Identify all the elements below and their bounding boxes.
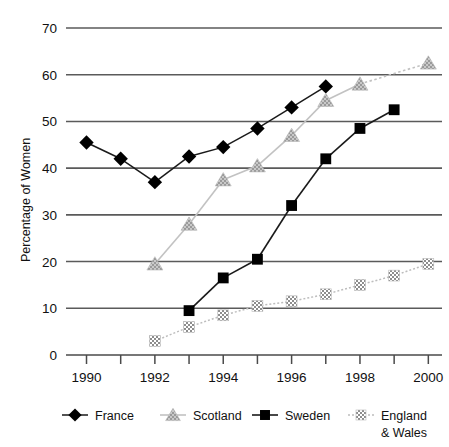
data-point-marker-checkered-square bbox=[356, 410, 366, 420]
data-point-marker-filled-triangle bbox=[147, 257, 163, 270]
data-point-marker-filled-square bbox=[260, 410, 270, 420]
data-point-marker-filled-square bbox=[218, 273, 229, 284]
data-point-marker-checkered-square bbox=[149, 336, 160, 347]
data-point-marker-filled-diamond bbox=[284, 100, 298, 114]
data-point-marker-checkered-square bbox=[252, 301, 263, 312]
y-tick-label: 10 bbox=[42, 301, 57, 316]
y-tick-label: 20 bbox=[42, 255, 57, 270]
data-point-marker-filled-triangle bbox=[352, 77, 368, 90]
data-point-marker-filled-diamond bbox=[113, 152, 127, 166]
chart-legend: FranceScotlandSwedenEngland& Wales bbox=[62, 408, 427, 440]
data-point-marker-filled-diamond bbox=[148, 175, 162, 189]
data-point-marker-filled-square bbox=[320, 153, 331, 164]
line-chart: Percentage of Women 010203040506070 1990… bbox=[0, 0, 449, 447]
data-point-marker-filled-triangle bbox=[181, 217, 197, 230]
legend-label: France bbox=[95, 409, 134, 423]
y-tick-label: 0 bbox=[49, 348, 57, 363]
data-point-marker-checkered-square bbox=[320, 289, 331, 300]
series-england-wales bbox=[149, 258, 433, 346]
y-axis-title: Percentage of Women bbox=[19, 138, 33, 262]
data-point-marker-filled-triangle bbox=[318, 93, 334, 106]
data-point-marker-checkered-square bbox=[184, 322, 195, 333]
x-tick-label: 2000 bbox=[413, 370, 443, 385]
x-tick-labels: 199019921994199619982000 bbox=[71, 370, 443, 385]
series-line-segment bbox=[257, 206, 291, 260]
legend-item-scotland[interactable]: Scotland bbox=[160, 408, 242, 423]
data-point-marker-filled-square bbox=[286, 200, 297, 211]
series-line-segment bbox=[121, 159, 155, 182]
data-point-marker-filled-square bbox=[355, 123, 366, 134]
data-point-marker-filled-diamond bbox=[182, 149, 196, 163]
data-point-marker-checkered-square bbox=[389, 270, 400, 281]
data-point-marker-filled-square bbox=[252, 254, 263, 265]
y-tick-label: 30 bbox=[42, 208, 57, 223]
data-point-marker-filled-triangle bbox=[420, 56, 436, 69]
y-tick-labels: 010203040506070 bbox=[42, 21, 57, 363]
series-line-segment bbox=[292, 159, 326, 206]
series-line-segment bbox=[257, 107, 291, 128]
data-point-marker-filled-square bbox=[184, 305, 195, 316]
x-tick-label: 1996 bbox=[277, 370, 307, 385]
x-tick-label: 1998 bbox=[345, 370, 375, 385]
legend-label: Sweden bbox=[285, 409, 330, 423]
y-tick-label: 50 bbox=[42, 114, 57, 129]
data-point-marker-filled-triangle bbox=[215, 173, 231, 186]
x-tick-label: 1990 bbox=[71, 370, 101, 385]
data-point-marker-checkered-square bbox=[423, 258, 434, 269]
data-point-marker-checkered-square bbox=[355, 279, 366, 290]
series-line-segment bbox=[189, 180, 223, 224]
series-line-segment bbox=[155, 156, 189, 182]
legend-label: Scotland bbox=[193, 409, 242, 423]
data-point-marker-checkered-square bbox=[218, 310, 229, 321]
chart-canvas: Percentage of Women 010203040506070 1990… bbox=[0, 0, 449, 447]
legend-item-sweden[interactable]: Sweden bbox=[252, 409, 330, 423]
series-line-segment bbox=[223, 128, 257, 147]
x-axis bbox=[66, 355, 442, 364]
y-tick-label: 70 bbox=[42, 21, 57, 36]
data-point-marker-checkered-square bbox=[286, 296, 297, 307]
y-axis-title-text: Percentage of Women bbox=[19, 138, 33, 262]
data-point-marker-filled-square bbox=[389, 104, 400, 115]
data-point-marker-filled-diamond bbox=[250, 121, 264, 135]
series-scotland bbox=[147, 56, 436, 270]
data-point-marker-filled-diamond bbox=[79, 135, 93, 149]
legend-item-england[interactable]: England& Wales bbox=[348, 409, 427, 440]
legend-item-france[interactable]: France bbox=[62, 408, 134, 423]
legend-label-line2: & Wales bbox=[381, 426, 427, 440]
data-point-marker-filled-diamond bbox=[68, 408, 81, 421]
series-line-segment bbox=[87, 142, 121, 158]
x-tick-label: 1992 bbox=[140, 370, 170, 385]
data-series-layer bbox=[79, 56, 436, 347]
y-tick-label: 40 bbox=[42, 161, 57, 176]
y-tick-label: 60 bbox=[42, 68, 57, 83]
data-point-marker-filled-diamond bbox=[319, 79, 333, 93]
data-point-marker-filled-diamond bbox=[216, 140, 230, 154]
legend-label: England bbox=[381, 409, 427, 423]
x-tick-label: 1994 bbox=[208, 370, 239, 385]
series-line-segment bbox=[360, 63, 428, 84]
